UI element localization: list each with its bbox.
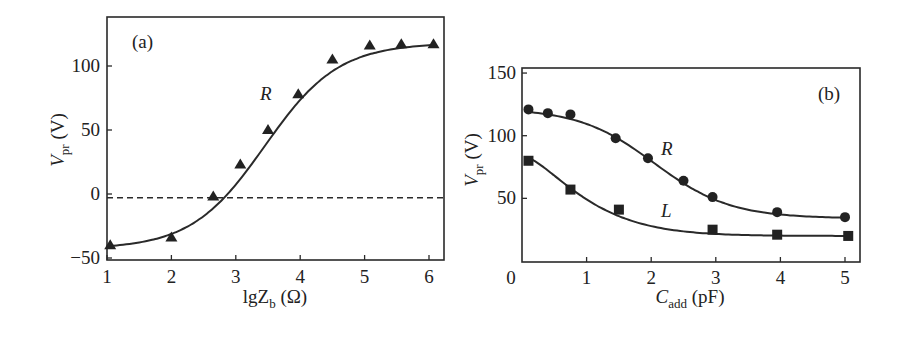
panel-b-curve-L — [528, 158, 848, 236]
triangle-marker — [428, 38, 440, 48]
circle-marker — [643, 153, 653, 163]
square-marker — [565, 185, 575, 195]
square-marker — [708, 225, 718, 235]
x-tick-label: 4 — [776, 267, 786, 288]
x-tick-label: 2 — [167, 266, 177, 287]
panel-b-y-axis-label: Vpr (V) — [461, 133, 486, 187]
circle-marker — [772, 207, 782, 217]
triangle-marker — [207, 191, 219, 201]
y-tick-label: 100 — [488, 125, 517, 146]
panel-b-curve-R — [528, 112, 848, 218]
x-tick-label: 6 — [424, 266, 434, 287]
triangle-marker — [395, 38, 407, 48]
triangle-marker — [234, 159, 246, 169]
panel-b-x-axis-label: Cadd (pF) — [656, 286, 725, 311]
y-tick-label: 150 — [488, 62, 517, 83]
x-tick-label: 0 — [506, 267, 516, 288]
x-tick-label: 4 — [295, 266, 305, 287]
square-marker — [523, 156, 533, 166]
figure-canvas: 123456 −50050100 (a) R lgZb (Ω) Vpr (V) … — [0, 0, 897, 338]
panel-b-tag: (b) — [818, 83, 840, 105]
y-tick-label: 100 — [72, 55, 101, 76]
panel-a-tag: (a) — [132, 31, 153, 53]
panel-a-frame — [107, 17, 444, 260]
y-tick-label: −50 — [70, 247, 100, 268]
circle-marker — [523, 104, 533, 114]
panel-b-markers-L — [523, 156, 853, 241]
x-tick-label: 5 — [840, 267, 850, 288]
circle-marker — [708, 192, 718, 202]
x-tick-label: 3 — [231, 266, 241, 287]
triangle-marker — [364, 40, 376, 50]
triangle-marker — [104, 239, 116, 249]
panel-a: 123456 −50050100 (a) R lgZb (Ω) Vpr (V) — [47, 17, 444, 311]
x-tick-label: 5 — [360, 266, 370, 287]
triangle-marker — [262, 124, 274, 134]
triangle-marker — [326, 54, 338, 64]
panel-b-y-ticks: 50100150 — [488, 62, 528, 208]
panel-a-y-axis-label: Vpr (V) — [47, 113, 72, 167]
panel-b-curve-label-R: R — [660, 138, 673, 159]
panel-a-markers-R — [104, 38, 439, 249]
square-marker — [772, 230, 782, 240]
triangle-marker — [292, 88, 304, 98]
square-marker — [843, 231, 853, 241]
circle-marker — [611, 133, 621, 143]
x-tick-label: 3 — [711, 267, 721, 288]
panel-a-curve-label-R: R — [259, 83, 272, 104]
y-tick-label: 0 — [91, 183, 101, 204]
panel-a-y-ticks: −50050100 — [70, 55, 112, 268]
y-tick-label: 50 — [497, 187, 516, 208]
square-marker — [614, 205, 624, 215]
circle-marker — [840, 212, 850, 222]
circle-marker — [679, 176, 689, 186]
circle-marker — [565, 109, 575, 119]
circle-marker — [543, 108, 553, 118]
x-tick-label: 2 — [646, 267, 656, 288]
panel-a-x-axis-label: lgZb (Ω) — [243, 286, 307, 311]
y-tick-label: 50 — [81, 119, 100, 140]
panel-b-curve-label-L: L — [660, 200, 672, 221]
panel-a-curve-R — [107, 45, 435, 246]
panel-b: 012345 50100150 (b) R L Cadd (pF) Vpr (V… — [461, 62, 860, 311]
x-tick-label: 1 — [102, 266, 112, 287]
panel-b-markers-R — [523, 104, 850, 222]
x-tick-label: 1 — [582, 267, 592, 288]
